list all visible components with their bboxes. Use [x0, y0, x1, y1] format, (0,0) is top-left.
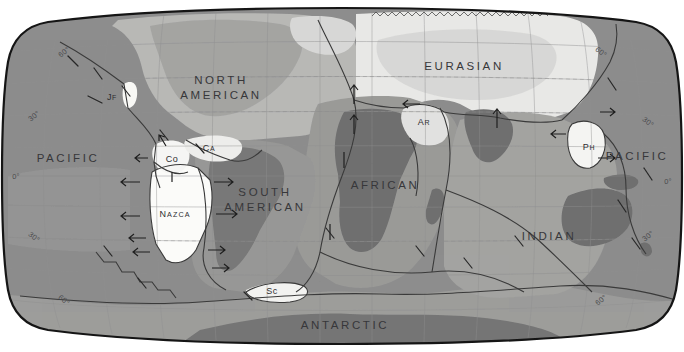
tectonic-plates-map: PACIFICPACIFICNORTHAMERICANSOUTHAMERICAN… [0, 0, 684, 352]
map-canvas [0, 0, 684, 352]
map-body [0, 0, 684, 352]
